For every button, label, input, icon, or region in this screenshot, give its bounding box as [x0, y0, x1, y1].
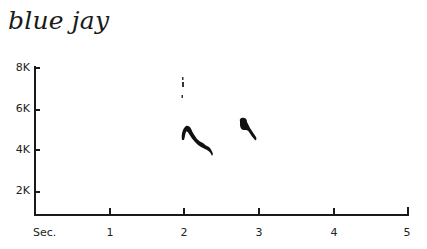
- faint-trace: [182, 77, 185, 98]
- call-1-mark: [182, 126, 213, 156]
- spectrogram-plot: [0, 0, 427, 249]
- call-2-mark: [240, 118, 257, 141]
- x-ticks: [110, 207, 408, 215]
- axes: [34, 66, 409, 216]
